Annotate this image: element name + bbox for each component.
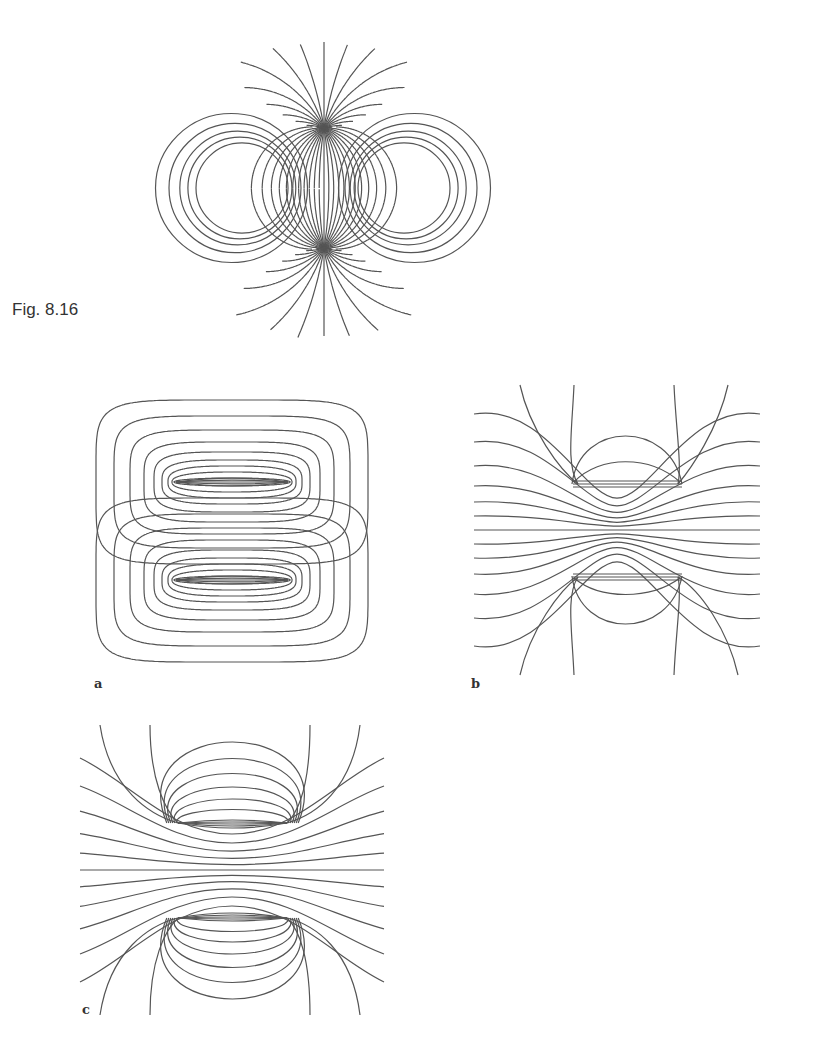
panel-c-field-lines: [80, 725, 384, 1015]
figure-canvas: [0, 0, 830, 1056]
panel-a-field-lines: [96, 400, 368, 662]
panel-label-c: c: [82, 1002, 90, 1017]
panel-b-field-lines: [474, 385, 760, 675]
figure-caption: Fig. 8.16: [12, 300, 78, 320]
panel-label-b: b: [471, 676, 480, 691]
panel-label-a: a: [94, 676, 102, 691]
top-field-lines: [156, 42, 491, 338]
